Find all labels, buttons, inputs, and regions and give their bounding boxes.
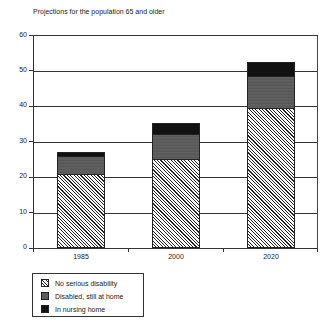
x-tick xyxy=(317,248,318,252)
bar-segment-disabled-at-home xyxy=(247,76,295,109)
x-label-2020: 2020 xyxy=(241,253,301,260)
x-axis xyxy=(33,248,318,249)
legend: No serious disability Disabled, still at… xyxy=(32,273,144,317)
y-tick-label: 40 xyxy=(0,101,27,108)
bar-2000 xyxy=(152,123,200,248)
legend-item-nursing-home: In nursing home xyxy=(41,304,105,314)
x-tick xyxy=(223,248,224,252)
bar-segment-no-disability xyxy=(57,174,105,248)
y-tick-label: 10 xyxy=(0,208,27,215)
black-swatch-icon xyxy=(41,305,49,313)
x-tick xyxy=(128,248,129,252)
x-label-1985: 1985 xyxy=(51,253,111,260)
y-tick-label: 30 xyxy=(0,137,27,144)
gray-swatch-icon xyxy=(41,292,49,300)
y-tick-label: 20 xyxy=(0,172,27,179)
legend-label: Disabled, still at home xyxy=(55,293,123,300)
bar-segment-disabled-at-home xyxy=(57,156,105,175)
y-tick-label: 50 xyxy=(0,66,27,73)
bar-2020 xyxy=(247,62,295,248)
x-label-2000: 2000 xyxy=(146,253,206,260)
y-tick-label: 0 xyxy=(0,243,27,250)
hatch-swatch-icon xyxy=(41,279,49,287)
x-tick xyxy=(33,248,34,252)
bar-segment-nursing-home xyxy=(247,62,295,77)
bar-segment-no-disability xyxy=(247,108,295,248)
legend-item-disabled-at-home: Disabled, still at home xyxy=(41,291,123,301)
legend-label: No serious disability xyxy=(55,280,117,287)
chart-title: Projections for the population 65 and ol… xyxy=(33,8,165,15)
y-tick-label: 60 xyxy=(0,31,27,38)
legend-label: In nursing home xyxy=(55,306,105,313)
bar-segment-disabled-at-home xyxy=(152,134,200,160)
bar-1985 xyxy=(57,152,105,248)
bar-segment-no-disability xyxy=(152,159,200,248)
legend-item-no-disability: No serious disability xyxy=(41,278,117,288)
